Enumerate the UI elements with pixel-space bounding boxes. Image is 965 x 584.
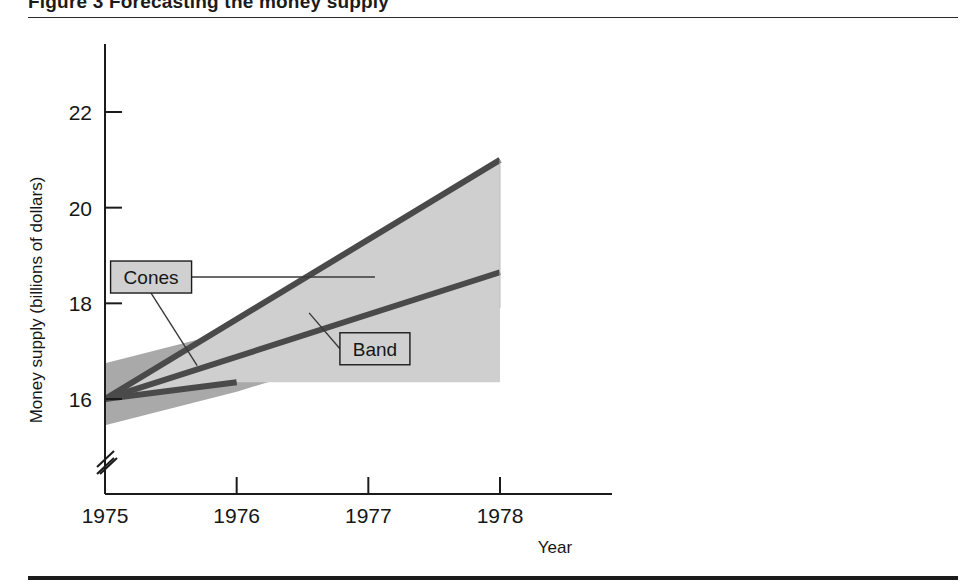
x-tick-label-1977: 1977 — [345, 504, 392, 527]
x-axis-title: Year — [538, 538, 573, 557]
callout-label-cones: Cones — [124, 267, 179, 288]
x-tick-label-1975: 1975 — [82, 504, 129, 527]
callout-label-band: Band — [353, 339, 397, 360]
y-tick-label-16: 16 — [69, 388, 92, 411]
x-axis-ticks: 1975197619771978 — [82, 458, 524, 527]
x-tick-label-1978: 1978 — [477, 504, 524, 527]
y-tick-label-20: 20 — [69, 197, 92, 220]
y-tick-label-18: 18 — [69, 292, 92, 315]
y-axis-title: Money supply (billions of dollars) — [27, 177, 46, 424]
bottom-divider-rule — [28, 576, 958, 580]
figure-container: Figure 3 Forecasting the money supply — [0, 0, 965, 584]
x-tick-label-1976: 1976 — [213, 504, 260, 527]
chart-canvas: 16182022 1975197619771978 Money supply (… — [0, 0, 965, 584]
y-tick-label-22: 22 — [69, 101, 92, 124]
x-axis-break-mark — [100, 458, 117, 474]
